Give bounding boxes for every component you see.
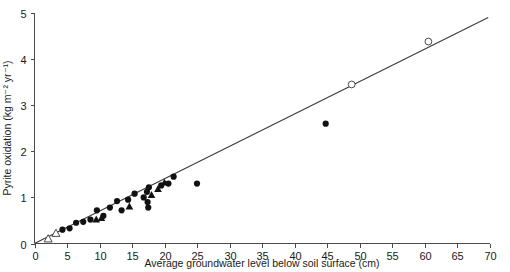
- data-point-filled-circle: [171, 174, 177, 180]
- y-tick-group: [31, 14, 35, 245]
- x-tick-label: 15: [126, 250, 138, 262]
- data-point-open-triangle: [52, 229, 60, 236]
- data-point-filled-circle: [146, 184, 152, 190]
- data-point-filled-circle: [323, 121, 329, 127]
- data-point-filled-circle: [145, 204, 151, 210]
- y-tick-label: 5: [20, 8, 26, 20]
- x-tick-label: 65: [451, 250, 463, 262]
- x-tick-label: 70: [484, 250, 496, 262]
- data-point-filled-circle: [119, 207, 125, 213]
- data-point-filled-circle: [73, 220, 79, 226]
- data-point-filled-triangle: [126, 203, 134, 210]
- y-tick-label: 0: [20, 239, 26, 251]
- y-axis-title: Pyrite oxidation (kg m⁻² yr⁻¹): [1, 60, 13, 195]
- data-point-filled-circle: [114, 198, 120, 204]
- regression-line: [35, 18, 489, 244]
- figure-container: 0510152025303540455055606570 012345 Aver…: [0, 0, 510, 272]
- y-tick-label: 3: [20, 100, 26, 112]
- y-tick-label: 1: [20, 192, 26, 204]
- x-tick-label: 55: [386, 250, 398, 262]
- data-points-group: [44, 38, 432, 242]
- data-point-filled-circle: [80, 219, 86, 225]
- data-point-filled-circle: [67, 225, 73, 231]
- data-point-filled-circle: [107, 204, 113, 210]
- data-point-filled-circle: [194, 180, 200, 186]
- y-tick-label-group: 012345: [20, 8, 26, 251]
- data-point-filled-circle: [59, 227, 65, 233]
- data-point-open-circle: [425, 38, 432, 45]
- data-point-filled-circle: [94, 207, 100, 213]
- x-tick-label: 60: [419, 250, 431, 262]
- data-point-filled-circle: [145, 199, 151, 205]
- data-point-filled-circle: [132, 191, 138, 197]
- y-tick-label: 2: [20, 146, 26, 158]
- x-tick-label: 10: [94, 250, 106, 262]
- x-tick-label: 5: [64, 250, 70, 262]
- data-point-filled-circle: [87, 216, 93, 222]
- x-tick-group: [36, 244, 491, 248]
- y-tick-label: 4: [20, 54, 26, 66]
- scatter-plot: 0510152025303540455055606570 012345 Aver…: [0, 0, 510, 272]
- axes-group: 0510152025303540455055606570 012345: [20, 8, 496, 262]
- data-point-filled-circle: [125, 197, 131, 203]
- data-point-open-circle: [348, 81, 355, 88]
- regression-line-group: [35, 18, 489, 244]
- x-tick-label: 0: [32, 250, 38, 262]
- x-axis-title: Average groundwater level below soil sur…: [145, 257, 380, 269]
